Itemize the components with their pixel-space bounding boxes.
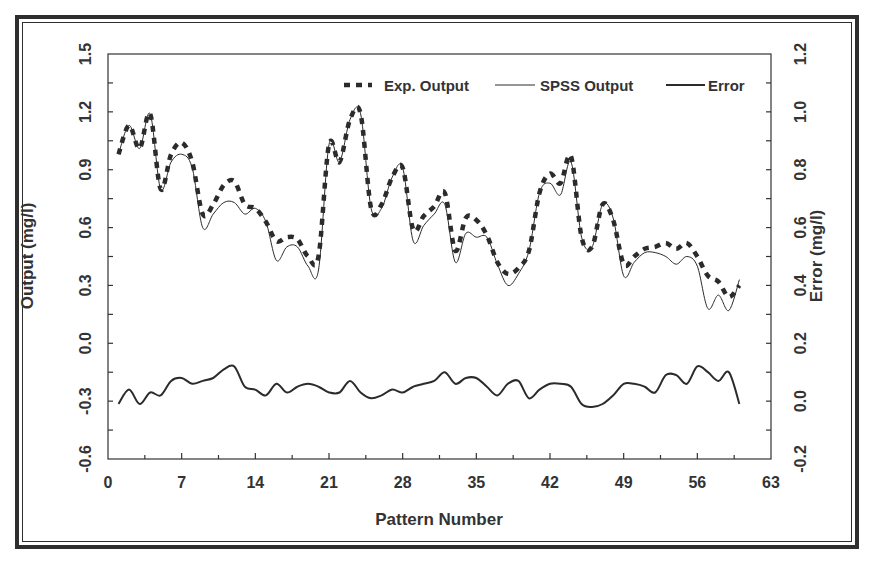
y2-tick-label: 0.2 xyxy=(792,332,809,354)
chart-canvas: 071421283542495663 -0.6-0.30.00.30.60.91… xyxy=(0,0,870,561)
plot-area xyxy=(108,54,771,459)
y2-tick-label: 1.2 xyxy=(792,43,809,65)
y-tick-label: 1.2 xyxy=(77,101,94,123)
chart-figure: 071421283542495663 -0.6-0.30.00.30.60.91… xyxy=(0,0,870,561)
x-tick-label: 14 xyxy=(246,474,264,491)
y-tick-label: 1.5 xyxy=(77,43,94,65)
x-tick-label: 35 xyxy=(467,474,485,491)
y-tick-label: 0.3 xyxy=(77,274,94,296)
legend: Exp. Output SPSS Output Error xyxy=(344,77,745,94)
y-axis-right-title: Error (mg/l) xyxy=(807,210,826,303)
legend-label: Exp. Output xyxy=(384,77,469,94)
y-tick-label: 0.9 xyxy=(77,158,94,180)
legend-label: Error xyxy=(708,77,745,94)
y-axis-left-title: Output (mg/l) xyxy=(18,203,37,310)
series-line-error xyxy=(119,365,740,407)
x-tick-label: 42 xyxy=(541,474,559,491)
y2-tick-label: 0.8 xyxy=(792,158,809,180)
series-layer xyxy=(119,107,740,407)
x-tick-label: 0 xyxy=(104,474,113,491)
y-axis-right-ticks: -0.20.00.20.40.60.81.01.2 xyxy=(766,43,809,473)
x-tick-label: 7 xyxy=(177,474,186,491)
legend-item-error: Error xyxy=(666,77,745,94)
y-tick-label: -0.6 xyxy=(77,445,94,473)
y2-tick-label: -0.2 xyxy=(792,445,809,473)
y2-tick-label: 1.0 xyxy=(792,101,809,123)
x-tick-label: 28 xyxy=(394,474,412,491)
legend-item-exp-output: Exp. Output xyxy=(344,77,469,94)
y2-tick-label: 0.0 xyxy=(792,390,809,412)
legend-label: SPSS Output xyxy=(540,77,633,94)
series-line-exp-output xyxy=(119,107,740,297)
x-tick-label: 49 xyxy=(615,474,633,491)
x-tick-label: 56 xyxy=(688,474,706,491)
x-axis-title: Pattern Number xyxy=(375,510,503,529)
y-tick-label: 0.6 xyxy=(77,216,94,238)
x-tick-label: 21 xyxy=(320,474,338,491)
legend-item-spss-output: SPSS Output xyxy=(495,77,633,94)
y-tick-label: -0.3 xyxy=(77,387,94,415)
x-tick-label: 63 xyxy=(762,474,780,491)
y-tick-label: 0.0 xyxy=(77,332,94,354)
outer-frame xyxy=(17,17,857,547)
